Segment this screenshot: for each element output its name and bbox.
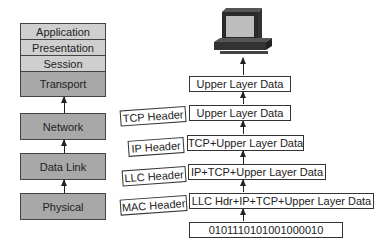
computer-icon (212, 8, 274, 56)
mac-data-box: LLC Hdr+IP+TCP+Upper Layer Data (189, 193, 374, 209)
arrow-up-icon (243, 58, 244, 75)
arrow-up-icon (64, 97, 65, 113)
osi-layer-presentation: Presentation (20, 39, 106, 56)
tcp-data-box: Upper Layer Data (189, 105, 291, 121)
osi-layer-application: Application (20, 23, 106, 40)
llc-header-box: LLC Header (122, 166, 187, 186)
arrow-up-icon (64, 140, 65, 153)
ip-data-box: TCP+Upper Layer Data (187, 135, 304, 151)
upper-layer-data-box: Upper Layer Data (189, 76, 291, 92)
osi-layer-network: Network (20, 113, 106, 140)
encapsulation-diagram: Application Presentation Session Transpo… (0, 0, 392, 251)
arrow-up-icon (243, 151, 244, 164)
tcp-header-box: TCP Header (120, 106, 187, 127)
arrow-up-icon (64, 180, 65, 193)
osi-layer-transport: Transport (20, 71, 106, 97)
arrow-up-icon (243, 92, 244, 104)
mac-header-box: MAC Header (120, 195, 188, 216)
arrow-up-icon (243, 121, 244, 134)
ip-header-box: IP Header (128, 137, 185, 157)
osi-layer-physical: Physical (20, 193, 106, 220)
osi-layer-data-link: Data Link (20, 153, 106, 180)
arrow-up-icon (243, 180, 244, 192)
llc-data-box: IP+TCP+Upper Layer Data (188, 164, 326, 180)
arrow-up-icon (243, 209, 244, 221)
bitstream-box: 0101110101001000010 (189, 222, 343, 238)
osi-layer-session: Session (20, 55, 106, 72)
